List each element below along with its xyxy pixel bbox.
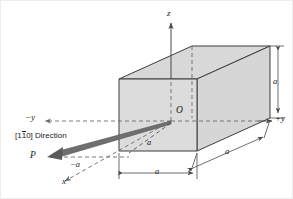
ext-line-depth-near: [191, 153, 197, 171]
origin-label: O: [176, 106, 183, 116]
figure-canvas: [1, 1, 293, 199]
dimension-label-interior-diagonal: a: [147, 138, 151, 147]
direction-label-suffix: 0] Direction: [26, 131, 66, 140]
direction-label-prefix: [1: [15, 131, 22, 140]
point-p-label: P: [30, 151, 36, 161]
dimension-label-negative-a: −a: [70, 160, 80, 169]
direction-label: [110] Direction: [15, 132, 67, 140]
dimension-label-depth: a: [225, 147, 229, 156]
direction-vector-arrowhead: [47, 147, 63, 160]
cube-front-face: [119, 79, 197, 151]
axis-label-x: x: [62, 177, 66, 186]
axis-label-z: z: [167, 9, 171, 18]
ext-line-depth-far: [264, 120, 270, 138]
direction-label-overbar-digit: 1: [22, 132, 26, 140]
crystal-direction-figure: z +y −y x O P [110] Direction a a a a −a: [0, 0, 293, 199]
dimension-label-width: a: [155, 167, 159, 176]
dimension-label-height: a: [273, 77, 277, 86]
axis-label-plus-y: +y: [275, 114, 285, 123]
cube-solid: [119, 46, 270, 151]
axis-label-minus-y: −y: [25, 113, 35, 122]
